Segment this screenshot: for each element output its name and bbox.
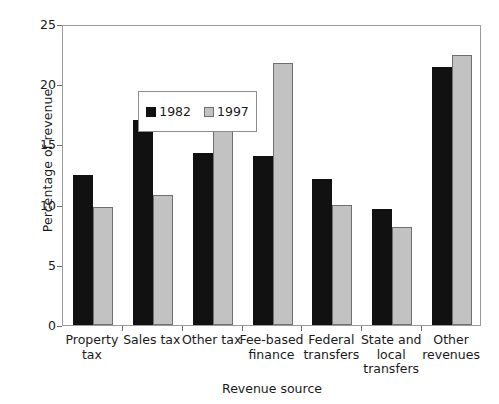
x-category-label-line: transfers xyxy=(355,362,427,377)
bar-1997-property-tax xyxy=(93,207,113,325)
legend-label-1997: 1997 xyxy=(217,104,249,119)
y-tick-label: 10 xyxy=(28,199,56,212)
legend-swatch-1997 xyxy=(204,107,214,117)
bar-1982-other-tax xyxy=(193,153,213,325)
bar-1997-fee-based-finance xyxy=(273,63,293,325)
bar-1982-federal-transfers xyxy=(312,179,332,325)
bar-1982-other-revenues xyxy=(432,67,452,325)
x-axis-title: Revenue source xyxy=(62,381,482,396)
x-tick-mark xyxy=(361,326,362,331)
bar-1982-property-tax xyxy=(73,175,93,326)
y-tick-label: 25 xyxy=(28,19,56,32)
chart-legend: 1982 1997 xyxy=(138,91,257,132)
bar-1982-state-and-local-transfers xyxy=(372,209,392,325)
x-tick-mark xyxy=(122,326,123,331)
y-tick-label: 0 xyxy=(28,320,56,333)
legend-label-1982: 1982 xyxy=(159,104,191,119)
bar-1997-sales-tax xyxy=(153,195,173,325)
bar-1982-sales-tax xyxy=(133,120,153,325)
y-tick-label: 5 xyxy=(28,260,56,273)
x-category-label-line: tax xyxy=(56,348,128,363)
x-category-label-line: Other xyxy=(415,333,487,348)
x-tick-mark xyxy=(182,326,183,331)
bar-1982-fee-based-finance xyxy=(253,156,273,325)
x-tick-mark xyxy=(301,326,302,331)
bar-1997-state-and-local-transfers xyxy=(392,227,412,325)
plot-area: 1982 1997 xyxy=(62,25,481,326)
y-tick-label: 20 xyxy=(28,79,56,92)
x-tick-mark xyxy=(421,326,422,331)
legend-entry-1997: 1997 xyxy=(204,104,249,119)
x-category-label-line: revenues xyxy=(415,348,487,363)
legend-swatch-1982 xyxy=(146,107,156,117)
bar-1997-federal-transfers xyxy=(332,205,352,325)
bar-1997-other-tax xyxy=(213,111,233,325)
x-category-label: Otherrevenues xyxy=(415,333,487,362)
bar-chart: Percentage of revenue 0510152025 1982 19… xyxy=(0,0,499,404)
x-tick-mark xyxy=(242,326,243,331)
bar-1997-other-revenues xyxy=(452,55,472,325)
y-tick-mark xyxy=(57,326,62,327)
legend-entry-1982: 1982 xyxy=(146,104,191,119)
y-tick-label: 15 xyxy=(28,139,56,152)
